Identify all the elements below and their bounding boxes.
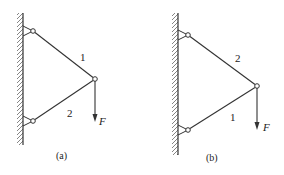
bar-upper [190,37,255,85]
bottom-pin-support [23,116,35,126]
top-pin-support [178,30,190,40]
joint-pin [93,77,98,82]
wall-hatch [172,13,178,155]
wall-hatch [17,13,23,145]
label-bar-upper: 2 [235,52,241,64]
caption-b: (b) [206,152,218,164]
label-bar-lower: 2 [67,107,73,119]
joint-pin [255,84,260,89]
bar-lower [35,81,93,120]
caption-a: (a) [56,150,67,162]
label-bar-lower: 1 [230,111,236,123]
label-force: F [262,121,270,133]
label-force: F [98,115,106,127]
figure-b: 2 1 F (b) [172,13,270,164]
truss-diagram: 1 2 F (a) 2 1 F (b) [0,0,284,175]
force-arrow-head [255,122,260,130]
bottom-pin-support [178,125,190,135]
label-bar-upper: 1 [80,51,86,63]
force-arrow-head [93,114,98,122]
bar-lower [190,88,255,129]
figure-a: 1 2 F (a) [17,13,106,162]
top-pin-support [23,26,35,36]
